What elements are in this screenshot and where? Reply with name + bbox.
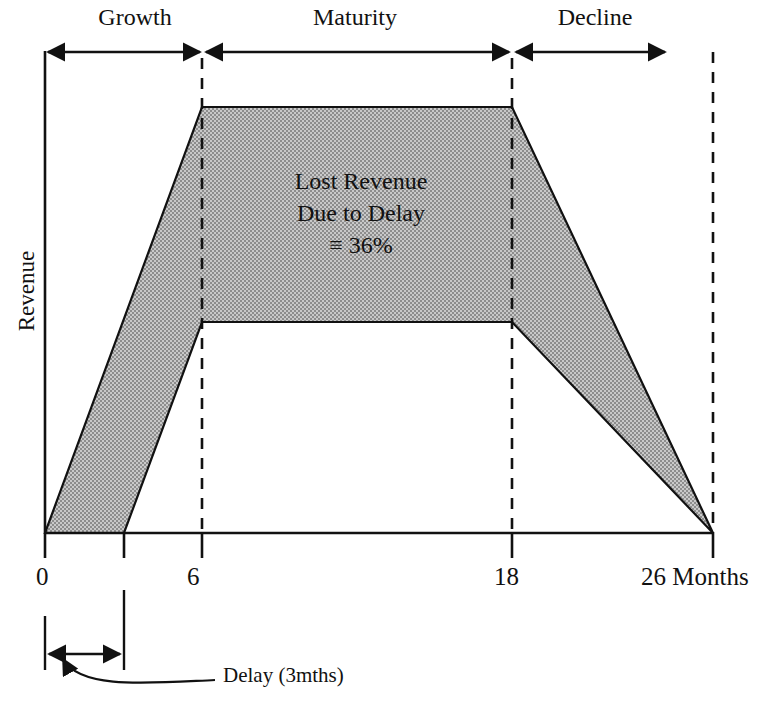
chart-canvas [0,0,770,701]
x-tick-label-26-months: 26 Months [641,563,749,591]
delay-leader-line [63,659,215,683]
phase-label-decline: Decline [515,4,675,31]
phase-label-maturity: Maturity [255,4,455,31]
product-lifecycle-chart: Growth Maturity Decline Revenue 0 6 18 2… [0,0,770,701]
x-tick-label-0: 0 [36,563,49,591]
phase-label-growth: Growth [60,4,210,31]
lost-revenue-annotation-line-2: Due to Delay [216,198,506,230]
lost-revenue-annotation-line-1: Lost Revenue [216,166,506,198]
lost-revenue-annotation: Lost Revenue Due to Delay ≡ 36% [216,166,506,262]
lost-revenue-annotation-value: ≡ 36% [216,230,506,262]
x-tick-label-6: 6 [187,563,200,591]
delay-callout-label: Delay (3mths) [223,663,344,688]
y-axis-label: Revenue [14,231,40,351]
x-tick-label-18: 18 [494,563,519,591]
